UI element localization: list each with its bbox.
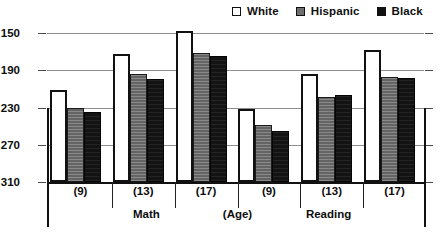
bar-hispanic-9 (255, 125, 272, 182)
y-tick-left-310 (38, 33, 46, 34)
bar-white-17 (364, 50, 381, 182)
bar-white-9 (50, 90, 67, 182)
bar-hispanic-17 (381, 77, 398, 182)
bar-groups (47, 33, 424, 182)
bar-hispanic-13 (130, 74, 147, 182)
bar-black-9 (84, 112, 101, 182)
category-label: (13) (301, 185, 363, 197)
y-axis-label-230: 230 (0, 102, 20, 114)
bar-black-13 (147, 79, 164, 182)
y-tick-left-230 (38, 108, 46, 109)
bar-white-9 (238, 109, 255, 182)
legend-item-black: Black (377, 5, 423, 17)
gray-square-icon (296, 7, 305, 16)
y-tick-left-190 (38, 145, 46, 146)
bar-black-13 (335, 95, 352, 182)
category-axis: (9)(13)(17)(9)(13)(17)Math(Age)Reading (47, 182, 426, 227)
bar-hispanic-13 (318, 97, 335, 182)
y-tick-right-310 (425, 33, 433, 34)
y-axis-line-right (424, 108, 426, 182)
y-tick-right-150 (425, 182, 433, 183)
y-tick-right-190 (425, 145, 433, 146)
category-label: (9) (238, 185, 300, 197)
bar-group (176, 33, 227, 182)
legend-item-white: White (232, 5, 279, 17)
legend-label-white: White (247, 5, 279, 17)
bar-chart: White Hispanic Black 310270230190150 (9)… (0, 0, 442, 239)
bar-black-17 (398, 78, 415, 182)
white-square-icon (232, 7, 241, 16)
plot-area: 310270230190150 (47, 33, 424, 182)
y-axis-label-190: 270 (0, 139, 20, 151)
y-axis-label-270: 190 (0, 64, 20, 76)
bar-group (238, 33, 289, 182)
bar-group (364, 33, 415, 182)
y-axis-label-150: 310 (0, 176, 20, 188)
black-square-icon (377, 7, 386, 16)
bar-black-17 (210, 56, 227, 182)
bar-group (301, 33, 352, 182)
section-label-reading: Reading (274, 208, 384, 220)
category-label: (13) (112, 185, 174, 197)
legend-label-hispanic: Hispanic (311, 5, 360, 17)
bar-hispanic-17 (193, 53, 210, 182)
chart-legend: White Hispanic Black (232, 2, 440, 20)
bar-black-9 (272, 131, 289, 182)
category-label: (9) (49, 185, 111, 197)
y-axis-label-310: 150 (0, 27, 20, 39)
category-label: (17) (364, 185, 426, 197)
legend-label-black: Black (392, 5, 423, 17)
bar-white-13 (301, 74, 318, 182)
bar-group (50, 33, 101, 182)
y-tick-right-230 (425, 108, 433, 109)
bar-white-17 (176, 31, 193, 182)
y-tick-right-270 (425, 70, 433, 71)
y-tick-left-150 (38, 182, 46, 183)
bar-group (113, 33, 164, 182)
bar-hispanic-9 (67, 108, 84, 183)
category-label: (17) (175, 185, 237, 197)
y-tick-left-270 (38, 70, 46, 71)
legend-item-hispanic: Hispanic (296, 5, 360, 17)
bar-white-13 (113, 54, 130, 183)
